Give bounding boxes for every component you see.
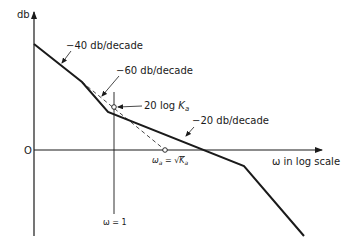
origin-label: O: [24, 145, 32, 156]
bode-plot: db ω in log scale O ω = 1 −40 db/decade …: [0, 0, 348, 252]
slope-arrow-minus-40: [62, 51, 71, 63]
dashed-asymptote-extension: [82, 82, 165, 150]
slope-label-minus-20: −20 db/decade: [192, 115, 269, 126]
gain-label: 20 log Ka: [144, 100, 189, 113]
crossover-point-marker: [163, 148, 168, 153]
slope-label-minus-40: −40 db/decade: [66, 40, 143, 51]
crossover-label: ωa = √Ka: [152, 156, 189, 166]
slope-label-minus-60: −60 db/decade: [116, 65, 193, 76]
slope-arrow-minus-60: [102, 76, 119, 96]
gain-label-arrow: [118, 106, 142, 107]
y-axis-label: db: [17, 9, 30, 20]
gain-point-marker: [112, 105, 117, 110]
slope-arrow-minus-20: [186, 127, 194, 136]
unity-frequency-label: ω = 1: [103, 218, 127, 227]
x-axis-label: ω in log scale: [272, 156, 340, 167]
